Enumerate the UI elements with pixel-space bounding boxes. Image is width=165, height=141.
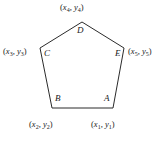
subscript-b: 2 bbox=[36, 124, 39, 130]
vertex-letter-c: C bbox=[44, 49, 50, 58]
pentagon-outline-svg bbox=[0, 0, 165, 141]
coord-label-a: (x1, y1) bbox=[91, 120, 115, 129]
subscript-d2: 4 bbox=[78, 7, 81, 13]
subscript-e: 5 bbox=[135, 51, 138, 57]
vertex-letter-b: B bbox=[55, 94, 61, 103]
coord-label-b: (x2, y2) bbox=[29, 120, 53, 129]
coord-label-c: (x3, y3) bbox=[3, 47, 27, 56]
vertex-letter-d: D bbox=[77, 26, 84, 35]
subscript-e2: 5 bbox=[146, 51, 149, 57]
subscript-c2: 3 bbox=[21, 51, 24, 57]
subscript-a: 1 bbox=[98, 124, 101, 130]
coord-label-e: (x5, y5) bbox=[128, 47, 152, 56]
pentagon-figure: D C E B A (x4, y4) (x3, y3) (x5, y5) (x2… bbox=[0, 0, 165, 141]
subscript-a2: 1 bbox=[109, 124, 112, 130]
vertex-letter-a: A bbox=[104, 94, 110, 103]
vertex-letter-e: E bbox=[115, 49, 121, 58]
subscript-c: 3 bbox=[10, 51, 13, 57]
coord-label-d: (x4, y4) bbox=[60, 3, 84, 12]
subscript-d: 4 bbox=[67, 7, 70, 13]
subscript-b2: 2 bbox=[47, 124, 50, 130]
